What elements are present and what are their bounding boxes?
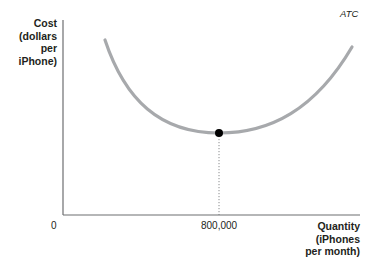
x-axis-label-line: (iPhones — [305, 233, 360, 246]
x-axis-label-line: per month) — [305, 245, 360, 258]
atc-curve — [105, 40, 352, 133]
y-axis-label: Cost (dollars per iPhone) — [19, 17, 58, 67]
x-axis-label: Quantity (iPhones per month) — [305, 220, 360, 258]
y-axis-label-line: per — [19, 42, 58, 55]
x-tick-label: 800,000 — [201, 220, 237, 231]
y-axis-label-line: (dollars — [19, 30, 58, 43]
origin-label: 0 — [51, 220, 57, 231]
minimum-point-dot — [215, 129, 223, 137]
y-axis-label-line: iPhone) — [19, 55, 58, 68]
atc-curve-label: ATC — [340, 8, 358, 19]
y-axis-label-line: Cost — [19, 17, 58, 30]
x-axis-label-line: Quantity — [305, 220, 360, 233]
